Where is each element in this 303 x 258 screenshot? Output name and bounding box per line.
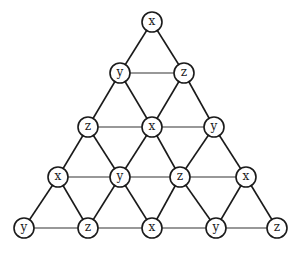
lattice-node: x xyxy=(142,117,162,137)
lattice-node: y xyxy=(204,117,224,137)
node-label: z xyxy=(181,65,187,79)
node-label: z xyxy=(274,220,280,234)
lattice-node: z xyxy=(267,218,287,238)
node-label: y xyxy=(116,169,124,183)
lattice-node: y xyxy=(110,63,130,83)
node-label: x xyxy=(55,169,62,183)
node-label: x xyxy=(149,119,156,133)
node-label: x xyxy=(149,14,156,28)
node-label: z xyxy=(177,169,183,183)
node-label: x xyxy=(243,169,250,183)
node-label: x xyxy=(149,220,156,234)
node-label: y xyxy=(116,65,124,79)
lattice-node: y xyxy=(110,167,130,187)
node-label: z xyxy=(85,119,91,133)
lattice-node: y xyxy=(206,218,226,238)
node-label: z xyxy=(85,220,91,234)
triangle-lattice-diagram: xyzzxyxyzxyzxyz xyxy=(0,0,303,258)
node-label: y xyxy=(20,220,28,234)
lattice-node: x xyxy=(48,167,68,187)
lattice-node: x xyxy=(142,218,162,238)
lattice-node: x xyxy=(236,167,256,187)
lattice-node: z xyxy=(78,218,98,238)
nodes-layer: xyzzxyxyzxyzxyz xyxy=(14,12,287,238)
lattice-node: z xyxy=(174,63,194,83)
lattice-node: z xyxy=(170,167,190,187)
lattice-node: z xyxy=(78,117,98,137)
lattice-node: y xyxy=(14,218,34,238)
lattice-node: x xyxy=(142,12,162,32)
node-label: y xyxy=(212,220,220,234)
node-label: y xyxy=(210,119,218,133)
